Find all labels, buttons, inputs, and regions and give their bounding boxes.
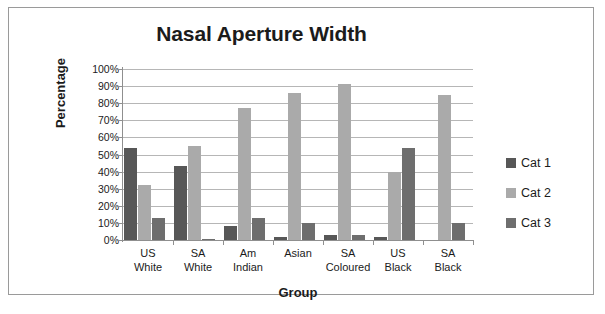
y-axis-tick-label: 90%: [79, 81, 119, 91]
x-axis-tick-mark: [473, 240, 474, 245]
bar: [288, 93, 301, 240]
legend-swatch-icon: [506, 158, 516, 168]
chart-frame: Nasal Aperture Width Percentage 100%90%8…: [8, 7, 594, 295]
x-axis-tick-mark: [273, 240, 274, 245]
x-axis-tick-mark: [223, 240, 224, 245]
y-axis-tick-mark: [117, 120, 123, 121]
legend-swatch-icon: [506, 218, 516, 228]
x-axis-line: [122, 240, 474, 241]
bar: [452, 223, 465, 240]
bar: [138, 185, 151, 240]
y-axis-tick-mark: [117, 103, 123, 104]
bar: [324, 235, 337, 240]
y-axis-tick-mark: [117, 223, 123, 224]
bar-group: [373, 69, 423, 240]
legend-item[interactable]: Cat 2: [506, 178, 596, 208]
bar-group: [223, 69, 273, 240]
y-axis-tick-label: 20%: [79, 201, 119, 211]
x-axis-tick-label-line: Black: [413, 260, 483, 274]
legend-item[interactable]: Cat 1: [506, 148, 596, 178]
bar: [174, 166, 187, 240]
y-axis-tick-mark: [117, 189, 123, 190]
y-axis-tick-label: 40%: [79, 167, 119, 177]
x-axis-tick-mark: [373, 240, 374, 245]
x-axis-tick-mark: [173, 240, 174, 245]
bar: [438, 95, 451, 240]
bar: [152, 218, 165, 240]
y-axis-tick-mark: [117, 137, 123, 138]
y-axis-tick-mark: [117, 172, 123, 173]
chart-legend: Cat 1Cat 2Cat 3: [506, 148, 596, 238]
legend-swatch-icon: [506, 188, 516, 198]
y-axis-tick-label: 30%: [79, 184, 119, 194]
x-axis-tick-label: SABlack: [413, 246, 483, 274]
bar: [338, 84, 351, 240]
bar-group: [123, 69, 173, 240]
bar: [124, 148, 137, 240]
y-axis-tick-labels: 100%90%80%70%60%50%40%30%20%10%0%: [79, 64, 119, 240]
bar: [188, 146, 201, 240]
bar: [302, 223, 315, 240]
x-axis-tick-mark: [323, 240, 324, 245]
chart-screenshot: Nasal Aperture Width Percentage 100%90%8…: [0, 0, 605, 314]
y-axis-tick-mark: [117, 240, 123, 241]
bar: [402, 148, 415, 240]
y-axis-tick-label: 10%: [79, 218, 119, 228]
bar: [252, 218, 265, 240]
legend-item-label: Cat 2: [521, 186, 551, 200]
bar-group: [273, 69, 323, 240]
legend-item-label: Cat 1: [521, 156, 551, 170]
y-axis-tick-mark: [117, 155, 123, 156]
x-axis-tick-label-line: Indian: [213, 260, 283, 274]
bar: [224, 226, 237, 240]
bar-group: [323, 69, 373, 240]
chart-title: Nasal Aperture Width: [9, 22, 514, 46]
bar-group: [423, 69, 473, 240]
y-axis-tick-label: 80%: [79, 98, 119, 108]
y-axis-tick-mark: [117, 206, 123, 207]
bar: [202, 239, 215, 240]
x-axis-title: Group: [123, 285, 473, 300]
y-axis-tick-label: 50%: [79, 150, 119, 160]
bar: [352, 235, 365, 240]
y-axis-tick-mark: [117, 86, 123, 87]
y-axis-title: Percentage: [53, 38, 68, 148]
x-axis-tick-label-line: SA: [413, 246, 483, 260]
bar: [388, 172, 401, 240]
x-axis-tick-mark: [423, 240, 424, 245]
bar-group: [173, 69, 223, 240]
y-axis-tick-label: 70%: [79, 115, 119, 125]
y-axis-tick-label: 0%: [79, 235, 119, 245]
legend-item[interactable]: Cat 3: [506, 208, 596, 238]
bar: [238, 108, 251, 240]
y-axis-tick-label: 100%: [79, 64, 119, 74]
plot-area: [123, 69, 473, 240]
legend-item-label: Cat 3: [521, 216, 551, 230]
y-axis-tick-label: 60%: [79, 132, 119, 142]
bar: [374, 237, 387, 240]
x-axis-tick-labels: USWhiteSAWhiteAmIndianAsianSAColouredUSB…: [123, 246, 473, 282]
bar: [274, 237, 287, 240]
y-axis-tick-mark: [117, 69, 123, 70]
